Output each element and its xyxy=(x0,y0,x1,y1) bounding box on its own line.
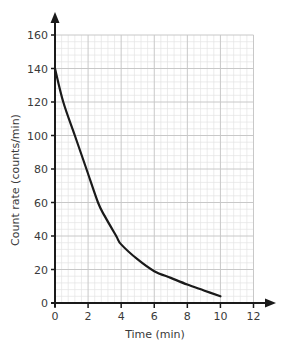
x-tick-label: 12 xyxy=(247,310,261,323)
x-axis-arrowhead-icon xyxy=(265,299,276,308)
y-axis-arrowhead-icon xyxy=(51,12,60,23)
x-axis-title: Time (min) xyxy=(124,328,185,341)
y-tick-label: 100 xyxy=(27,130,48,143)
y-tick-label: 140 xyxy=(27,63,48,76)
decay-chart: 020406080100120140160 024681012 Time (mi… xyxy=(0,0,288,357)
y-tick-label: 80 xyxy=(34,163,48,176)
y-tick-label: 60 xyxy=(34,197,48,210)
x-axis-ticks: 024681012 xyxy=(52,303,261,323)
y-tick-label: 120 xyxy=(27,96,48,109)
y-tick-label: 160 xyxy=(27,29,48,42)
y-axis-ticks: 020406080100120140160 xyxy=(27,29,55,310)
y-tick-label: 0 xyxy=(41,297,48,310)
x-tick-label: 8 xyxy=(184,310,191,323)
x-tick-label: 2 xyxy=(85,310,92,323)
x-tick-label: 0 xyxy=(52,310,59,323)
x-tick-label: 6 xyxy=(151,310,158,323)
x-tick-label: 4 xyxy=(118,310,125,323)
y-axis-title: Count rate (counts/min) xyxy=(9,114,22,246)
y-tick-label: 40 xyxy=(34,230,48,243)
x-tick-label: 10 xyxy=(213,310,227,323)
y-tick-label: 20 xyxy=(34,264,48,277)
